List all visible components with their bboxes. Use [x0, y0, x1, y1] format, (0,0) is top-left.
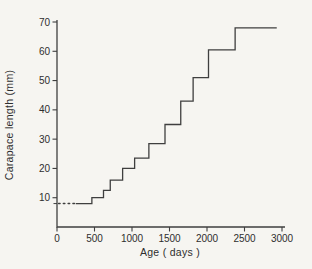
growth-step-chart-figure: 10203040506070050010001500200025003000 A… [0, 0, 312, 269]
x-tick-label: 1500 [158, 233, 181, 244]
y-tick-label: 60 [39, 46, 51, 57]
step-chart: 10203040506070050010001500200025003000 A… [0, 0, 312, 269]
y-tick-label: 50 [39, 75, 51, 86]
y-tick-label: 70 [39, 17, 51, 28]
data-series [59, 28, 277, 204]
x-axis-label: Age ( days ) [140, 246, 200, 258]
y-tick-label: 10 [39, 192, 51, 203]
x-tick-label: 3000 [271, 233, 294, 244]
y-tick-label: 40 [39, 104, 51, 115]
x-tick-label: 2000 [196, 233, 219, 244]
y-tick-label: 20 [39, 163, 51, 174]
axis-ticks [53, 22, 283, 232]
y-tick-label: 30 [39, 134, 51, 145]
x-tick-label: 2500 [233, 233, 256, 244]
y-axis-label: Carapace length (mm) [3, 70, 15, 180]
axis-spines [57, 20, 285, 227]
step-growth-line [76, 28, 277, 204]
x-tick-label: 1000 [121, 233, 144, 244]
tick-labels: 10203040506070050010001500200025003000 [39, 17, 294, 245]
x-tick-label: 0 [54, 233, 60, 244]
x-tick-label: 500 [86, 233, 103, 244]
axes [57, 20, 285, 227]
